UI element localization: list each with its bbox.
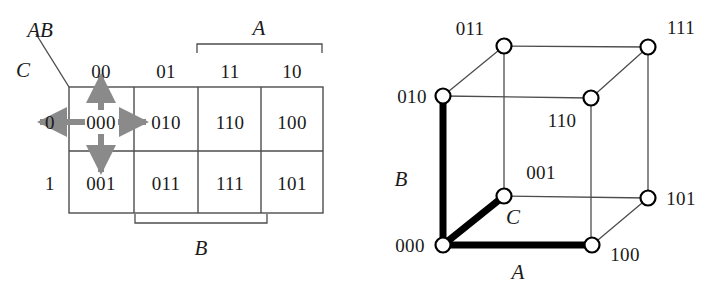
cube-label-000: 000	[395, 236, 424, 255]
cube-label-110: 110	[548, 111, 577, 130]
cube-label-101: 101	[666, 189, 695, 208]
cube-axis-label-c: C	[506, 207, 520, 228]
cube-text-layer: 010 011 111 110 001 101 000 100 B C A	[0, 0, 720, 288]
figure-root: AB C 00 01 11 10 0 1 000 010 110 100 001…	[0, 0, 720, 288]
cube-axis-label-b: B	[395, 169, 408, 190]
cube-label-100: 100	[610, 245, 639, 264]
cube-label-111: 111	[667, 18, 695, 37]
cube-axis-label-a: A	[512, 262, 525, 283]
cube-label-001: 001	[526, 163, 555, 182]
cube-label-010: 010	[397, 87, 426, 106]
cube-label-011: 011	[456, 19, 485, 38]
